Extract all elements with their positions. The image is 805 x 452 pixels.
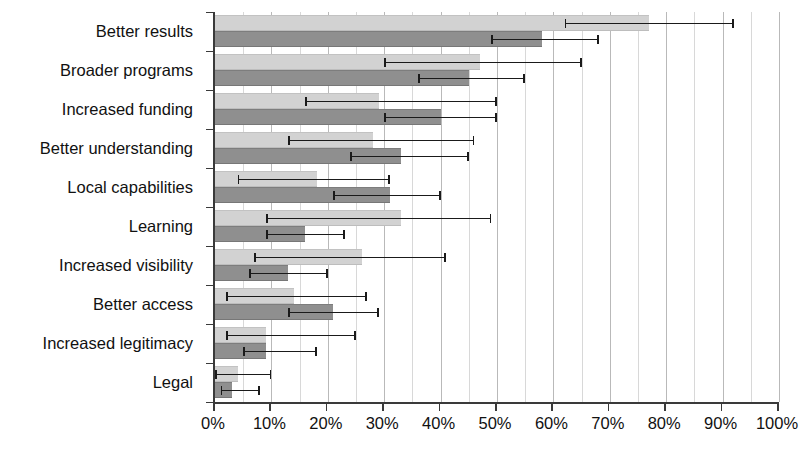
error-bar-cap-low <box>350 152 352 161</box>
error-bar <box>288 136 474 145</box>
error-bar-line <box>226 335 356 337</box>
error-bar-cap-low <box>565 19 567 28</box>
error-bar <box>249 269 328 278</box>
error-bar-cap-low <box>266 214 268 223</box>
error-bar <box>266 230 345 239</box>
error-bar-line <box>243 351 316 353</box>
y-axis-tick <box>206 363 214 364</box>
error-bar <box>384 58 581 67</box>
category-label: Better results <box>96 23 193 40</box>
x-axis-tick <box>721 402 723 411</box>
error-bar-cap-high <box>439 191 441 200</box>
bar-group <box>215 90 779 129</box>
error-bar-cap-high <box>326 269 328 278</box>
category-label: Increased funding <box>62 101 193 118</box>
x-axis-tick-label: 80% <box>648 414 681 433</box>
error-bar-line <box>305 101 497 103</box>
x-axis-tick <box>664 402 666 411</box>
x-axis-tick <box>777 402 779 411</box>
bar-group <box>215 363 779 402</box>
error-bar-cap-high <box>365 292 367 301</box>
error-bar-cap-high <box>490 214 492 223</box>
y-axis-tick <box>206 129 214 130</box>
x-axis-tick-label: 40% <box>422 414 455 433</box>
x-axis-tick-label: 0% <box>201 414 225 433</box>
error-bar-line <box>226 296 367 298</box>
category-label: Broader programs <box>60 62 193 79</box>
error-bar <box>238 175 390 184</box>
x-axis-tick <box>326 402 328 411</box>
x-axis-tick <box>551 402 553 411</box>
y-axis-tick <box>206 246 214 247</box>
y-axis-tick <box>206 207 214 208</box>
error-bar-cap-high <box>388 175 390 184</box>
error-bar-line <box>254 257 446 259</box>
x-axis-tick-label: 90% <box>704 414 737 433</box>
error-bar-line <box>418 78 525 80</box>
error-bar <box>350 152 468 161</box>
error-bar-line <box>491 39 598 41</box>
x-axis-tick <box>439 402 441 411</box>
error-bar-cap-low <box>384 58 386 67</box>
bar-group <box>215 246 779 285</box>
horizontal-bar-chart: Better resultsBroader programsIncreased … <box>0 0 805 452</box>
error-bar-line <box>266 218 492 220</box>
error-bar <box>384 113 497 122</box>
x-axis-tick <box>608 402 610 411</box>
error-bar-line <box>333 195 440 197</box>
x-axis-tick-label: 10% <box>253 414 286 433</box>
error-bar <box>288 308 378 317</box>
error-bar <box>243 347 316 356</box>
error-bar-cap-low <box>384 113 386 122</box>
error-bar-line <box>288 312 378 314</box>
y-axis-tick <box>206 90 214 91</box>
category-label: Learning <box>129 218 193 235</box>
error-bar-cap-low <box>221 386 223 395</box>
error-bar <box>226 331 356 340</box>
category-label: Legal <box>153 374 193 391</box>
error-bar-line <box>350 156 468 158</box>
x-axis-tick <box>495 402 497 411</box>
error-bar-cap-low <box>254 253 256 262</box>
error-bar-cap-high <box>258 386 260 395</box>
category-label: Better access <box>93 296 193 313</box>
error-bar-cap-low <box>266 230 268 239</box>
error-bar-line <box>221 390 260 392</box>
error-bar-cap-high <box>732 19 734 28</box>
y-axis-tick <box>206 402 214 403</box>
error-bar <box>565 19 734 28</box>
error-bar-cap-high <box>377 308 379 317</box>
error-bar <box>491 35 598 44</box>
error-bar <box>226 292 367 301</box>
category-axis-labels: Better resultsBroader programsIncreased … <box>0 12 205 402</box>
error-bar-line <box>249 273 328 275</box>
error-bar-cap-low <box>418 74 420 83</box>
error-bar-cap-low <box>491 35 493 44</box>
error-bar <box>215 370 271 379</box>
error-bar-cap-high <box>354 331 356 340</box>
error-bar-cap-low <box>288 308 290 317</box>
error-bar-cap-low <box>288 136 290 145</box>
error-bar-line <box>238 179 390 181</box>
error-bar-cap-high <box>467 152 469 161</box>
error-bar-cap-high <box>270 370 272 379</box>
x-axis-tick-label: 50% <box>478 414 511 433</box>
error-bar-cap-low <box>243 347 245 356</box>
x-axis-tick-label: 30% <box>366 414 399 433</box>
plot-area <box>213 12 779 402</box>
error-bar <box>221 386 260 395</box>
bar-group <box>215 51 779 90</box>
error-bar-cap-high <box>444 253 446 262</box>
x-axis-tick <box>269 402 271 411</box>
error-bar <box>305 97 497 106</box>
error-bar-cap-high <box>523 74 525 83</box>
error-bar-cap-high <box>473 136 475 145</box>
error-bar-cap-low <box>226 331 228 340</box>
x-axis-tick-label: 60% <box>535 414 568 433</box>
x-axis-tick-label: 70% <box>591 414 624 433</box>
error-bar-cap-low <box>238 175 240 184</box>
error-bar-cap-low <box>215 370 217 379</box>
bar-group <box>215 207 779 246</box>
x-axis-tick <box>382 402 384 411</box>
x-axis-tick-label: 20% <box>309 414 342 433</box>
